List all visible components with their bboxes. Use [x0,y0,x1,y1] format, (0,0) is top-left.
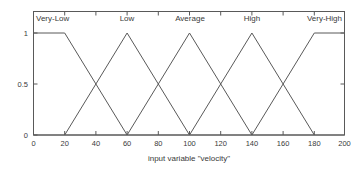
mf-label-high: High [244,14,260,24]
x-tick-40: 40 [92,139,100,148]
plot-frame [34,12,345,136]
plot-canvas [0,0,358,178]
x-tick-200: 200 [338,139,351,148]
mf-label-very-high: Very-High [307,14,342,24]
fuzzy-membership-plot: Very-Low Low Average High Very-High 1 0.… [0,0,358,178]
x-tick-180: 180 [308,139,321,148]
x-tick-60: 60 [123,139,131,148]
x-tick-160: 160 [277,139,290,148]
x-tick-120: 120 [214,139,227,148]
y-tick-1: 1 [8,29,28,38]
y-tick-0point5: 0.5 [4,80,28,89]
x-tick-20: 20 [61,139,69,148]
y-tick-0: 0 [8,131,28,140]
mf-label-low: Low [120,14,135,24]
x-axis-title: input variable "velocity" [148,154,230,163]
mf-label-average: Average [175,14,205,24]
x-tick-0: 0 [31,139,35,148]
mf-label-very-low: Very-Low [36,14,69,24]
x-tick-140: 140 [246,139,259,148]
x-tick-100: 100 [183,139,196,148]
x-tick-80: 80 [154,139,162,148]
